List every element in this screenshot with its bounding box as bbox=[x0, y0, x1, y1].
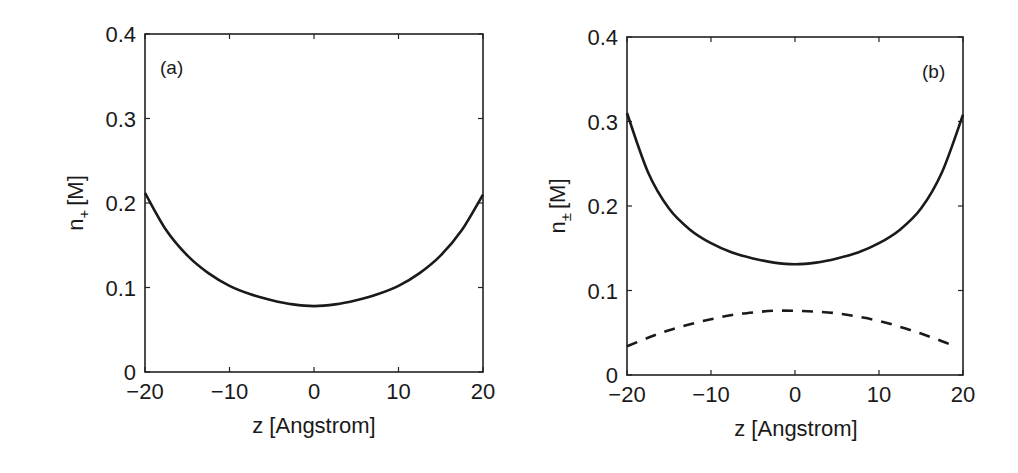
y-tick-label: 0.3 bbox=[105, 107, 136, 132]
panel-a-label: (a) bbox=[160, 57, 183, 78]
panel-b-x-axis-label: z [Angstrom] bbox=[734, 416, 857, 441]
panel-a-y-label-unit: [M] bbox=[63, 175, 88, 206]
panel-a-y-label-main: n bbox=[63, 219, 88, 231]
panel-b-y-label-unit: [M] bbox=[545, 178, 570, 209]
panel-b-plot: −20−1001020 00.10.20.30.4 (b) z [Angstro… bbox=[545, 25, 975, 441]
y-tick-label: 0.4 bbox=[587, 25, 618, 50]
solid-curve bbox=[145, 193, 483, 306]
x-tick-label: −10 bbox=[211, 379, 248, 404]
y-tick-label: 0.2 bbox=[105, 191, 136, 216]
x-tick-label: 20 bbox=[951, 382, 975, 407]
panel-b-label: (b) bbox=[922, 61, 945, 82]
y-tick-label: 0.3 bbox=[587, 110, 618, 135]
panel-b-series bbox=[627, 113, 963, 346]
y-tick-label: 0.1 bbox=[105, 276, 136, 301]
svg-text:n±[M]: n±[M] bbox=[545, 178, 574, 233]
panel-a-series bbox=[145, 193, 483, 306]
panel-b-y-label-main: n bbox=[545, 221, 570, 233]
panel-b-axes-frame bbox=[627, 37, 963, 375]
y-tick-label: 0.2 bbox=[587, 194, 618, 219]
panel-b-y-ticks: 00.10.20.30.4 bbox=[587, 25, 963, 388]
y-tick-label: 0.1 bbox=[587, 279, 618, 304]
y-tick-label: 0 bbox=[606, 363, 618, 388]
solid-curve bbox=[627, 113, 963, 264]
y-tick-label: 0 bbox=[124, 360, 136, 385]
panel-b-x-ticks: −20−1001020 bbox=[608, 37, 975, 407]
panel-a-y-label-sub: + bbox=[75, 210, 92, 219]
panel-a-axes-frame bbox=[145, 34, 483, 372]
panel-a-y-axis-label: n+[M] bbox=[63, 175, 92, 231]
x-tick-label: −10 bbox=[692, 382, 729, 407]
panel-a-x-axis-label: z [Angstrom] bbox=[252, 413, 375, 438]
x-tick-label: 0 bbox=[308, 379, 320, 404]
x-tick-label: 10 bbox=[386, 379, 410, 404]
figure: −20−1001020 00.10.20.30.4 (a) z [Angstro… bbox=[0, 0, 1018, 473]
panel-b-y-label-sub: ± bbox=[557, 213, 574, 221]
panel-a-plot: −20−1001020 00.10.20.30.4 (a) z [Angstro… bbox=[63, 22, 495, 438]
dashed-curve bbox=[627, 311, 950, 347]
panel-a-x-ticks: −20−1001020 bbox=[126, 34, 495, 404]
x-tick-label: 0 bbox=[789, 382, 801, 407]
x-tick-label: 20 bbox=[471, 379, 495, 404]
svg-text:n+[M]: n+[M] bbox=[63, 175, 92, 231]
panel-b-y-axis-label: n±[M] bbox=[545, 178, 574, 233]
x-tick-label: 10 bbox=[867, 382, 891, 407]
y-tick-label: 0.4 bbox=[105, 22, 136, 47]
